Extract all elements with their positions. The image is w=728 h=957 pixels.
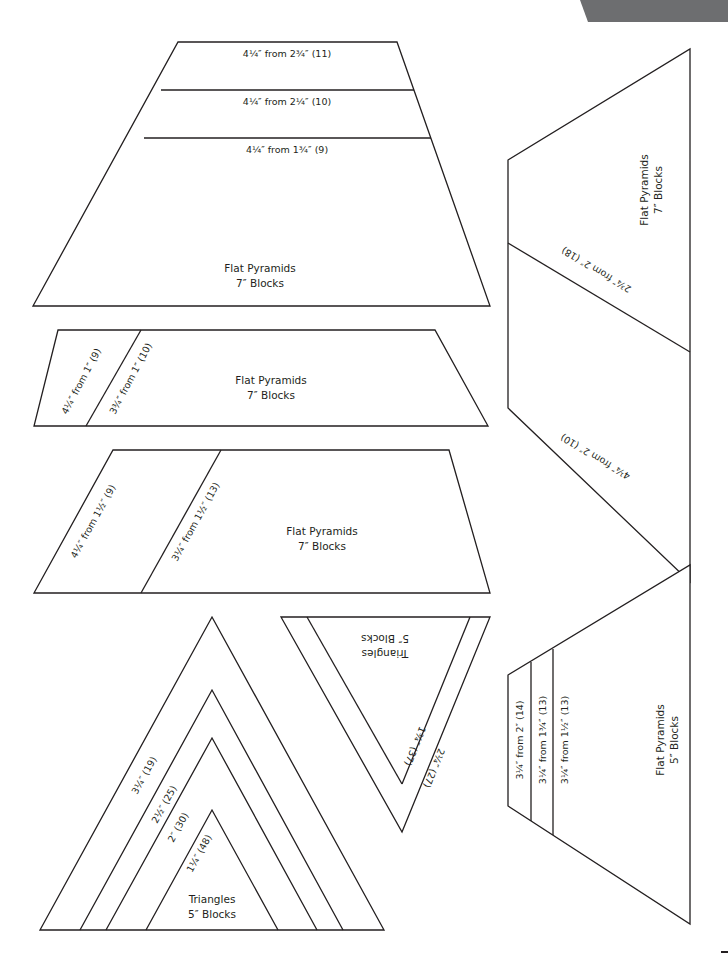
shape-subtitle: 7″ Blocks — [247, 389, 295, 401]
trapezoid-outline — [508, 49, 690, 582]
row-label: 4¼″ from 2¾″ (11) — [243, 48, 331, 59]
shape-subtitle: 7″ Blocks — [652, 166, 664, 214]
strip-label: 3¼″ from 1¾″ (13) — [537, 696, 548, 784]
shape-title: Flat Pyramids — [235, 374, 306, 386]
shape-title: Flat Pyramids — [286, 525, 357, 537]
page-number-mark — [721, 951, 728, 953]
flat-pyramid-7-b: 4¼″ from 1″ (9) 3¾″ from 1″ (10) Flat Py… — [34, 330, 488, 426]
shape-title: Triangles — [188, 893, 236, 905]
strip-label: 3¼″ from 1½″ (13) — [559, 696, 570, 784]
shape-title: Flat Pyramids — [654, 704, 666, 775]
row-label: 4¼″ from 2¼″ (10) — [243, 96, 331, 107]
row-label: 4¼″ from 1¾″ (9) — [246, 144, 328, 155]
flat-pyramid-5: 3¼″ from 2″ (14) 3¼″ from 1¾″ (13) 3¼″ f… — [508, 565, 690, 924]
strip-label: 3¼″ from 2″ (14) — [514, 700, 525, 779]
flat-pyramid-7-a: 4¼″ from 2¾″ (11) 4¼″ from 2¼″ (10) 4¼″ … — [33, 42, 490, 306]
shape-title: Flat Pyramids — [638, 154, 650, 225]
page-corner-tab — [580, 0, 728, 22]
shape-subtitle: 5″ Blocks — [188, 908, 236, 920]
parallelogram-outline — [34, 450, 490, 593]
shape-subtitle: 7″ Blocks — [236, 277, 284, 289]
flat-pyramid-7-c: 4¼″ from 1½″ (9) 3¼″ from 1½″ (13) Flat … — [34, 450, 490, 593]
shape-title: Flat Pyramids — [224, 262, 295, 274]
shape-subtitle: 5″ Blocks — [668, 716, 680, 764]
shape-subtitle: 5″ Blocks — [361, 633, 409, 645]
shape-subtitle: 7″ Blocks — [298, 540, 346, 552]
templates-sheet: 4¼″ from 2¾″ (11) 4¼″ from 2¼″ (10) 4¼″ … — [0, 0, 728, 957]
shape-title: Triangles — [362, 648, 410, 660]
flat-pyramid-7-d: Flat Pyramids 7″ Blocks 2¾″ from 2″ (18)… — [508, 49, 690, 582]
